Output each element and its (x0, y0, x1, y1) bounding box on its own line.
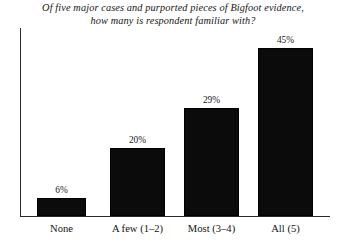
bar-none (37, 198, 86, 216)
bar-value-none: 6% (37, 185, 86, 196)
y-axis-line (20, 28, 21, 217)
bar-most (184, 108, 239, 216)
bar-chart-figure: Of five major cases and purported pieces… (0, 0, 346, 247)
plot-area: 6% None 20% A few (1–2) 29% Most (3–4) 4… (0, 0, 346, 247)
category-label-most: Most (3–4) (171, 222, 252, 235)
category-label-none: None (26, 222, 97, 235)
bar-a-few (110, 148, 165, 216)
bar-value-all: 45% (258, 35, 313, 46)
bar-all (258, 48, 313, 216)
category-label-all: All (5) (250, 222, 321, 235)
category-label-a-few: A few (1–2) (97, 222, 178, 235)
bar-value-a-few: 20% (110, 135, 165, 146)
bar-value-most: 29% (184, 95, 239, 106)
